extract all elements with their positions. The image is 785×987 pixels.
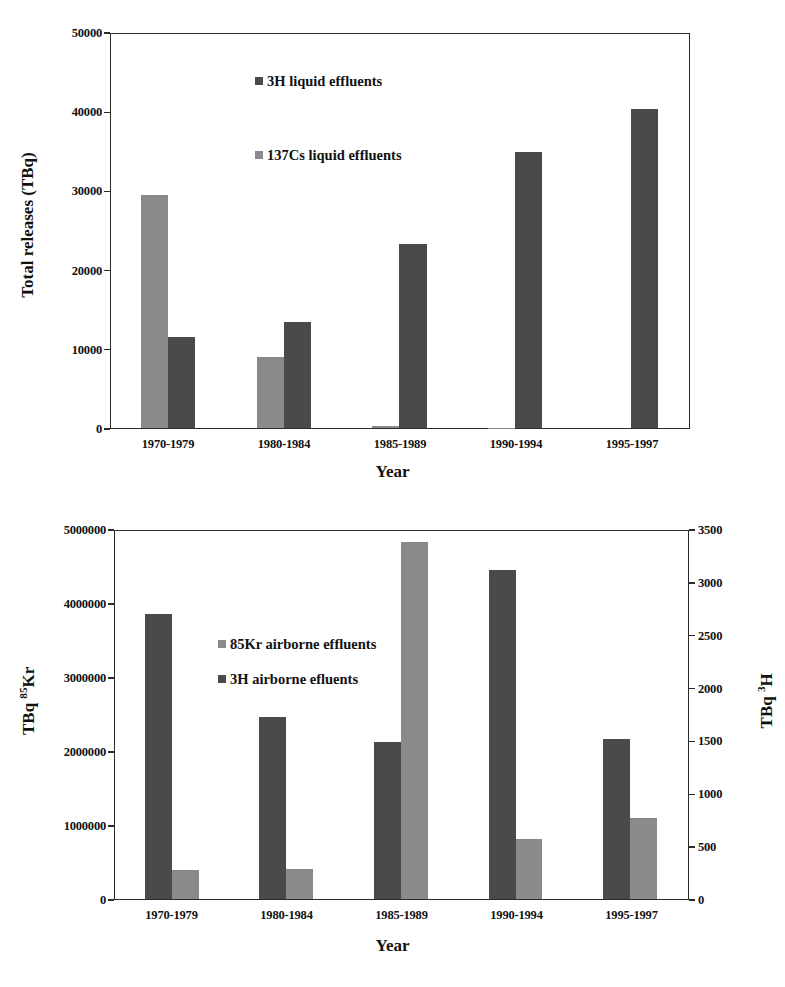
legend-swatch-icon [255, 77, 263, 85]
bar-liquid-effluents-3h-liquid-effluents-1980-1984 [284, 322, 311, 428]
bottom-y-left-title-tail: Kr [19, 667, 38, 688]
bar-liquid-effluents-137cs-liquid-effluents-1970-1979 [141, 195, 168, 428]
top-plot-area [110, 33, 690, 429]
bottom-legend-item-0: 85Kr airborne effluents [218, 637, 376, 652]
liquid-effluents-chart: Total releases (TBq) 0100002000030000400… [0, 0, 785, 500]
top-yticks-label-4: 40000 [72, 106, 102, 119]
top-yticks-label-5: 50000 [72, 27, 102, 40]
top-y-axis-title: Total releases (TBq) [18, 115, 38, 335]
bar-airborne-effluents-85kr-airborne-effluents-1990-1994 [516, 839, 543, 899]
bottom-legend-item-1: 3H airborne efluents [218, 672, 358, 687]
top-xticks-label-4: 1995-1997 [606, 437, 658, 452]
bottom-y-left-title-sup: 85 [17, 687, 29, 698]
top-legend-item-1: 137Cs liquid effluents [255, 148, 402, 163]
bar-airborne-effluents-3h-airborne-efluents-1995-1997 [603, 739, 630, 899]
bottom-yticks-right-mark-7 [689, 529, 695, 530]
bar-liquid-effluents-137cs-liquid-effluents-1980-1984 [257, 357, 284, 428]
bottom-xticks-label-0: 1970-1979 [145, 908, 197, 923]
bottom-yticks-right-mark-0 [689, 899, 695, 900]
bottom-y-right-title-base: TBq [757, 692, 776, 728]
bottom-yticks-right-mark-5 [689, 635, 695, 636]
bottom-y-axis-right-title: TBq 3H [755, 601, 777, 801]
airborne-effluents-chart: TBq 85Kr TBq 3H 010000002000000300000040… [0, 490, 785, 987]
top-x-axis-title: Year [0, 462, 785, 482]
bottom-yticks-right-label-3: 1500 [698, 735, 722, 748]
bottom-legend-label-1: 3H airborne efluents [230, 672, 358, 687]
bottom-yticks-right-label-7: 3500 [698, 524, 722, 537]
top-xticks-label-3: 1990-1994 [490, 437, 542, 452]
top-yticks-label-1: 10000 [72, 344, 102, 357]
bottom-yticks-left-label-1: 1000000 [64, 820, 106, 833]
bottom-yticks-left-label-3: 3000000 [64, 672, 106, 685]
bottom-yticks-right-label-5: 2500 [698, 629, 722, 642]
bottom-xticks-label-1: 1980-1984 [260, 908, 312, 923]
bottom-xticks-label-3: 1990-1994 [490, 908, 542, 923]
bottom-yticks-left-label-4: 4000000 [64, 598, 106, 611]
bottom-yticks-left-label-5: 5000000 [64, 524, 106, 537]
bottom-yticks-right-mark-6 [689, 582, 695, 583]
bar-airborne-effluents-3h-airborne-efluents-1990-1994 [489, 570, 516, 899]
bottom-plot-area [114, 530, 689, 900]
bar-airborne-effluents-3h-airborne-efluents-1980-1984 [259, 717, 286, 899]
bottom-bars-layer [115, 531, 688, 899]
bottom-yticks-right-mark-3 [689, 741, 695, 742]
bar-liquid-effluents-3h-liquid-effluents-1990-1994 [515, 152, 542, 428]
bar-liquid-effluents-3h-liquid-effluents-1995-1997 [631, 109, 658, 428]
legend-swatch-icon [218, 675, 226, 683]
bottom-yticks-left-label-0: 0 [100, 894, 106, 907]
bottom-yticks-right-label-0: 0 [698, 894, 704, 907]
bar-liquid-effluents-3h-liquid-effluents-1970-1979 [168, 337, 195, 428]
bar-airborne-effluents-3h-airborne-efluents-1970-1979 [145, 614, 172, 899]
bottom-yticks-right-label-2: 1000 [698, 788, 722, 801]
bar-airborne-effluents-85kr-airborne-effluents-1970-1979 [172, 870, 199, 899]
bottom-yticks-right-label-6: 3000 [698, 577, 722, 590]
bottom-y-axis-left-title: TBq 85Kr [17, 601, 39, 801]
bottom-y-right-title-tail: H [757, 673, 776, 686]
top-legend-item-0: 3H liquid effluents [255, 74, 382, 89]
bottom-legend-label-0: 85Kr airborne effluents [230, 637, 376, 652]
bar-liquid-effluents-3h-liquid-effluents-1985-1989 [399, 244, 426, 428]
bottom-yticks-right-mark-2 [689, 794, 695, 795]
bottom-yticks-left-label-2: 2000000 [64, 746, 106, 759]
bottom-y-left-title-base: TBq [19, 699, 38, 735]
bar-liquid-effluents-137cs-liquid-effluents-1985-1989 [372, 426, 399, 428]
legend-swatch-icon [218, 640, 226, 648]
top-xticks-label-0: 1970-1979 [142, 437, 194, 452]
bottom-yticks-right-label-4: 2000 [698, 682, 722, 695]
legend-swatch-icon [255, 151, 263, 159]
bottom-xticks-label-4: 1995-1997 [605, 908, 657, 923]
top-bars-layer [111, 34, 689, 428]
top-legend-label-1: 137Cs liquid effluents [267, 148, 402, 163]
bottom-x-axis-title: Year [0, 936, 785, 956]
top-xticks-label-2: 1985-1989 [374, 437, 426, 452]
top-yticks-label-0: 0 [96, 423, 102, 436]
top-legend-label-0: 3H liquid effluents [267, 74, 382, 89]
bottom-yticks-right-label-1: 500 [698, 841, 716, 854]
bar-airborne-effluents-85kr-airborne-effluents-1985-1989 [401, 542, 428, 899]
bottom-y-right-title-sup: 3 [755, 686, 767, 692]
bottom-yticks-right-mark-4 [689, 688, 695, 689]
bar-airborne-effluents-3h-airborne-efluents-1985-1989 [374, 742, 401, 899]
bottom-xticks-label-2: 1985-1989 [375, 908, 427, 923]
top-yticks-label-3: 30000 [72, 185, 102, 198]
bar-airborne-effluents-85kr-airborne-effluents-1995-1997 [630, 818, 657, 899]
bottom-yticks-right-mark-1 [689, 846, 695, 847]
top-xticks-label-1: 1980-1984 [258, 437, 310, 452]
top-yticks-label-2: 20000 [72, 264, 102, 277]
bar-airborne-effluents-85kr-airborne-effluents-1980-1984 [286, 869, 313, 899]
